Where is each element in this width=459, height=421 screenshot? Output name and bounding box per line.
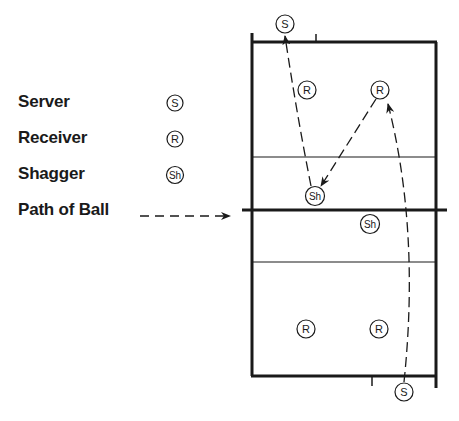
legend-shagger-symbol: Sh — [167, 167, 184, 184]
svg-text:Sh: Sh — [169, 170, 181, 181]
player-server-top: S — [276, 15, 294, 33]
svg-text:Sh: Sh — [364, 219, 376, 230]
player-receiver: R — [297, 320, 315, 338]
player-receiver: R — [298, 81, 316, 99]
svg-text:R: R — [303, 84, 311, 96]
svg-text:R: R — [302, 323, 310, 335]
court-lines — [242, 33, 447, 388]
player-receiver: R — [370, 320, 388, 338]
svg-text:Sh: Sh — [309, 191, 321, 202]
pass-path — [321, 99, 376, 186]
player-receiver: R — [371, 81, 389, 99]
player-shagger: Sh — [361, 215, 380, 234]
legend-receiver-symbol: R — [167, 131, 183, 147]
player-shagger: Sh — [306, 187, 325, 206]
serve-path — [388, 104, 409, 382]
svg-text:R: R — [376, 84, 384, 96]
svg-text:R: R — [171, 133, 179, 145]
legend-server-symbol: S — [167, 95, 183, 111]
shag-return-path — [285, 36, 311, 186]
svg-text:R: R — [375, 323, 383, 335]
svg-text:S: S — [400, 386, 407, 398]
svg-text:S: S — [171, 97, 178, 109]
volleyball-court-diagram: S R Sh S R R Sh — [0, 0, 459, 421]
svg-text:S: S — [281, 18, 288, 30]
player-server-bottom: S — [395, 383, 413, 401]
